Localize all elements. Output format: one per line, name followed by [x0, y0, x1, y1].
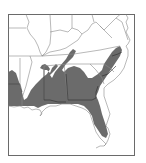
- range-map: [0, 0, 146, 163]
- map-canvas: [0, 0, 146, 163]
